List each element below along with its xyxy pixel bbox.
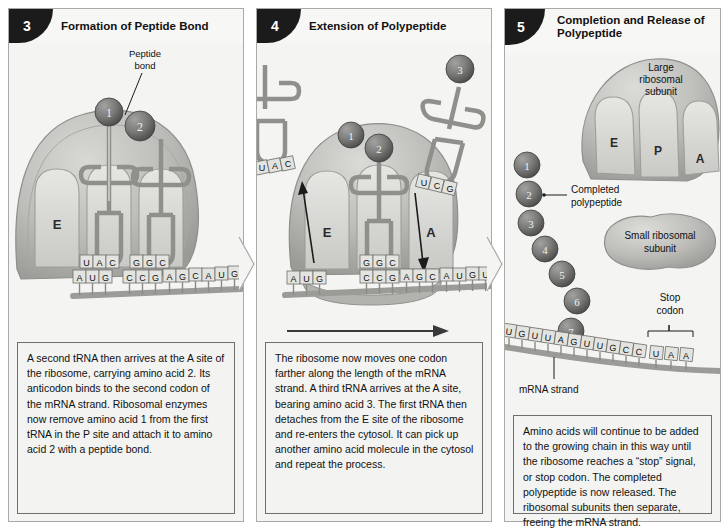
svg-text:U: U	[531, 331, 539, 342]
step-connector-arrow-4-to-5	[486, 236, 504, 292]
svg-text:C: C	[109, 258, 116, 268]
panel-3-header: 3 Formation of Peptide Bond	[9, 9, 243, 43]
panel-3-caption: A second tRNA then arrives at the A site…	[17, 342, 235, 514]
svg-text:A: A	[76, 273, 82, 283]
polypeptide-label-1: 1	[524, 160, 530, 172]
stop-codon-bases: U A A	[649, 345, 693, 370]
svg-text:G: G	[376, 258, 383, 268]
svg-text:C: C	[159, 258, 166, 268]
svg-text:U: U	[653, 349, 660, 359]
polypeptide-label-2: 2	[526, 189, 532, 201]
anticodon-uac: U A C	[80, 255, 119, 268]
svg-text:C: C	[139, 273, 146, 283]
svg-text:G: G	[609, 343, 617, 354]
svg-text:A: A	[205, 271, 211, 281]
svg-text:G: G	[518, 329, 526, 340]
small-subunit-label-l1: Small ribosomal	[624, 230, 695, 241]
svg-text:C: C	[434, 181, 441, 191]
amino-acid-label-1: 1	[348, 130, 354, 142]
svg-text:A: A	[290, 274, 296, 284]
svg-text:G: G	[416, 272, 423, 282]
amino-acid-label-1: 1	[106, 106, 112, 120]
small-subunit-label-l2: subunit	[644, 243, 676, 254]
large-subunit-label-l2: ribosomal	[639, 74, 682, 85]
polypeptide-label-4: 4	[542, 244, 548, 256]
small-subunit-shape	[605, 214, 716, 269]
completed-polypeptide-label-l2: polypeptide	[571, 197, 623, 208]
svg-text:G: G	[133, 258, 140, 268]
peptide-bond-label-line2: bond	[134, 60, 155, 71]
p-site-label: P	[654, 144, 662, 158]
panel-4-title: Extension of Polypeptide	[309, 9, 487, 43]
svg-text:A: A	[443, 271, 449, 281]
polypeptide-label-3: 3	[528, 218, 534, 230]
panel-step-3: 3 Formation of Peptide Bond	[8, 8, 244, 522]
amino-acid-label-3: 3	[457, 64, 463, 76]
svg-text:U: U	[583, 339, 591, 350]
svg-text:A: A	[683, 351, 689, 361]
svg-text:U: U	[505, 327, 513, 338]
step-number-badge-4: 4	[257, 9, 301, 43]
svg-text:U: U	[89, 273, 96, 283]
svg-text:G: G	[363, 258, 370, 268]
stop-codon-label-l2: codon	[656, 305, 683, 316]
ribosome-diagram-step-3: E	[9, 43, 243, 341]
e-site-label: E	[323, 225, 332, 240]
step-number-badge-3: 3	[9, 9, 53, 43]
amino-acid-label-2: 2	[376, 143, 382, 155]
svg-text:U: U	[596, 341, 604, 352]
ribosome-release-diagram: E P A Large ribosomal subunit Small ribo…	[505, 49, 720, 415]
large-subunit-label-l3: subunit	[645, 86, 677, 97]
e-site-label: E	[610, 136, 618, 150]
anticodon-ggc: G G C	[360, 255, 399, 268]
svg-text:A: A	[668, 350, 674, 360]
p-site-slot	[639, 91, 679, 177]
svg-text:U: U	[218, 270, 225, 280]
svg-text:A: A	[403, 272, 409, 282]
svg-text:G: G	[102, 273, 109, 283]
svg-text:G: G	[179, 272, 186, 282]
peptide-bond-leader	[125, 73, 142, 115]
svg-text:U: U	[303, 274, 310, 284]
panel-4-header: 4 Extension of Polypeptide	[257, 9, 491, 43]
panel-5-inner: 5 Completion and Release of Polypeptide	[505, 9, 720, 521]
mrna-strand-label: mRNA strand	[519, 384, 578, 395]
ribosome-diagram-step-4: E A U A C	[257, 43, 491, 341]
svg-text:G: G	[570, 337, 578, 348]
svg-text:G: G	[446, 184, 453, 194]
anticodon-ggc: G G C	[130, 255, 169, 268]
svg-text:C: C	[192, 271, 199, 281]
svg-text:G: G	[231, 269, 238, 279]
svg-text:U: U	[421, 178, 428, 188]
svg-text:A: A	[272, 161, 278, 171]
svg-text:C: C	[376, 273, 383, 283]
panel-step-4: 4 Extension of Polypeptide	[256, 8, 492, 522]
e-site-label: E	[53, 217, 62, 232]
large-subunit-label-l1: Large	[648, 62, 674, 73]
trna-exiting	[257, 65, 299, 163]
svg-text:C: C	[285, 159, 292, 169]
amino-acid-label-2: 2	[137, 120, 143, 134]
svg-text:G: G	[146, 258, 153, 268]
panel-4-illustration: E A U A C	[257, 43, 491, 341]
polypeptide-label-5: 5	[559, 269, 565, 281]
svg-text:U: U	[259, 163, 266, 173]
ribosome-movement-arrow	[287, 325, 449, 337]
panel-3-illustration: E	[9, 43, 243, 341]
a-site-label: A	[426, 225, 436, 240]
step-number-badge-5: 5	[505, 9, 545, 45]
svg-text:G: G	[152, 273, 159, 283]
figure-canvas: 3 Formation of Peptide Bond	[0, 0, 727, 528]
a-site-label: A	[696, 152, 705, 166]
panel-3-title: Formation of Peptide Bond	[61, 9, 239, 43]
svg-text:U: U	[83, 258, 90, 268]
panel-5-illustration: E P A Large ribosomal subunit Small ribo…	[505, 49, 720, 415]
step-connector-arrow-3-to-4	[238, 236, 256, 292]
panel-3-inner: 3 Formation of Peptide Bond	[9, 9, 243, 521]
panel-5-title-text: Completion and Release of Polypeptide	[557, 14, 716, 40]
svg-text:G: G	[316, 274, 323, 284]
svg-text:C: C	[126, 273, 133, 283]
stop-codon-label-l1: Stop	[660, 292, 681, 303]
svg-text:A: A	[96, 258, 102, 268]
polypeptide-label-6: 6	[574, 296, 580, 308]
